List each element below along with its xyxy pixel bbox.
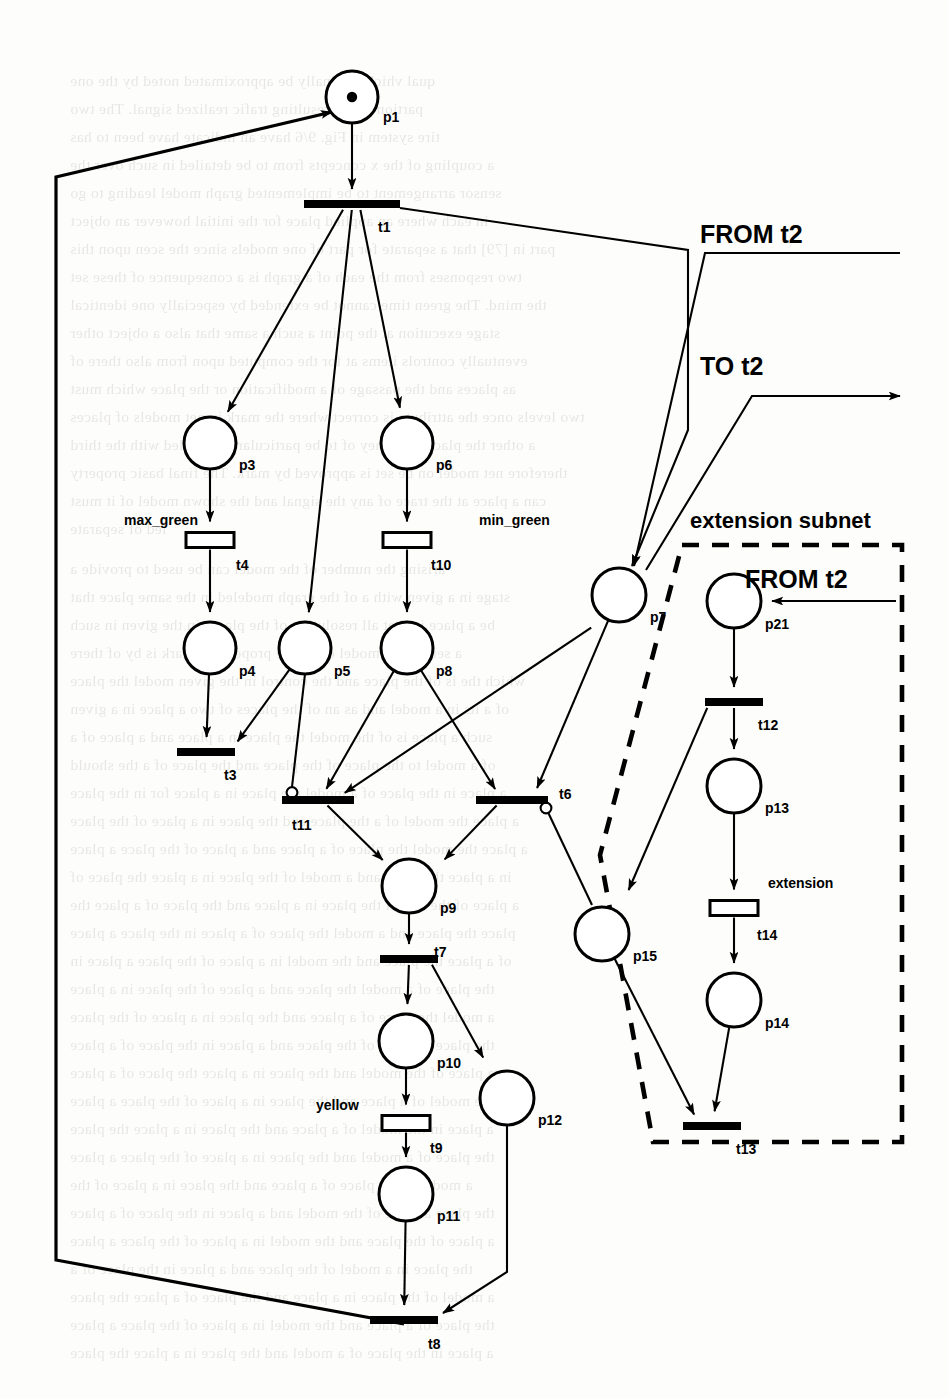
transition-label-t6: t6: [559, 786, 572, 802]
place-label-p21: p21: [765, 616, 789, 632]
transition-t11[interactable]: [282, 796, 354, 804]
transition-name-t14: extension: [768, 875, 833, 891]
place-label-p10: p10: [437, 1055, 461, 1071]
arc-p5-t3: [238, 669, 290, 741]
arc-p15-t13: [614, 958, 694, 1114]
place-label-p4: p4: [239, 663, 256, 679]
place-p10[interactable]: [379, 1014, 433, 1068]
arc-t1-p3: [228, 210, 343, 412]
transition-t3[interactable]: [177, 748, 235, 756]
place-p7[interactable]: [592, 568, 646, 622]
arc-p11-t8: [404, 1221, 405, 1305]
transition-t7[interactable]: [380, 955, 438, 963]
place-p12[interactable]: [480, 1071, 534, 1125]
arc-p14-t13: [715, 1027, 730, 1112]
place-p8[interactable]: [381, 622, 433, 674]
thick-arc-layer: [56, 112, 404, 1324]
transition-t12[interactable]: [705, 698, 763, 706]
transition-label-t9: t9: [430, 1140, 443, 1156]
transition-t13[interactable]: [683, 1122, 741, 1130]
place-p5[interactable]: [279, 622, 331, 674]
arc-t11-p9: [327, 805, 382, 860]
place-p6[interactable]: [381, 417, 433, 469]
place-label-p11: p11: [437, 1208, 461, 1224]
inhibitor-dot-t6: [541, 803, 552, 814]
transition-t14[interactable]: [710, 901, 758, 916]
place-p11[interactable]: [379, 1167, 433, 1221]
annotation-extension-subnet: extension subnet: [690, 508, 872, 533]
arc-layer: [207, 123, 902, 1313]
place-p14[interactable]: [707, 973, 761, 1027]
transition-label-t11: t11: [292, 817, 312, 833]
token-p1: [347, 92, 357, 102]
place-label-p9: p9: [440, 900, 457, 916]
place-label-p13: p13: [765, 800, 789, 816]
arc-t12-p15: [629, 708, 708, 890]
place-p13[interactable]: [707, 759, 761, 813]
petri-net-diagram: p1p3p6p4p5p8p7p21p9p13p15p14p10p12p11t1t…: [0, 0, 948, 1398]
place-p9[interactable]: [382, 859, 436, 913]
transition-t6[interactable]: [476, 796, 548, 804]
place-label-p3: p3: [239, 457, 256, 473]
place-label-p1: p1: [383, 109, 400, 125]
arc-p8-t11: [326, 671, 394, 789]
transition-t8[interactable]: [370, 1316, 438, 1324]
place-label-p14: p14: [765, 1015, 789, 1031]
place-label-p12: p12: [538, 1112, 562, 1128]
transition-label-t1: t1: [378, 219, 391, 235]
arc-p7-t6: [537, 620, 608, 788]
arc-t8-p1-feedback: [56, 112, 404, 1324]
place-label-p8: p8: [436, 663, 453, 679]
arc-p4-t3: [207, 674, 209, 737]
transition-t1[interactable]: [304, 200, 400, 208]
transition-label-t4: t4: [236, 557, 249, 573]
transition-label-t10: t10: [431, 557, 451, 573]
node-layer: [177, 71, 763, 1324]
transition-name-t9: yellow: [316, 1097, 359, 1113]
extension-subnet-boundary: [600, 545, 902, 1142]
label-layer: p1p3p6p4p5p8p7p21p9p13p15p14p10p12p11t1t…: [124, 109, 872, 1352]
transition-label-t8: t8: [428, 1336, 441, 1352]
transition-label-t13: t13: [736, 1141, 756, 1157]
annotation-from-t2-subnet: FROM t2: [745, 565, 848, 593]
transition-t10[interactable]: [383, 533, 431, 548]
place-p15[interactable]: [575, 907, 629, 961]
place-p4[interactable]: [184, 622, 236, 674]
place-label-p5: p5: [334, 663, 351, 679]
page-sheet: qual vhich originally be approximated no…: [0, 0, 948, 1398]
arc-inhibitor-t6-p15: [546, 808, 592, 905]
arc-p8-t6: [421, 670, 495, 789]
place-label-p7: p7: [650, 609, 667, 625]
annotation-from-t2-top: FROM t2: [700, 220, 803, 248]
arc-t1-p6: [360, 210, 400, 408]
arc-inhibitor-p5-t11: [292, 674, 305, 787]
place-p3[interactable]: [184, 417, 236, 469]
annotation-to-t2: TO t2: [700, 352, 763, 380]
transition-label-t14: t14: [757, 927, 777, 943]
arc-t6-p9: [445, 805, 497, 859]
transition-t9[interactable]: [382, 1116, 430, 1131]
transition-name-t10: min_green: [479, 512, 550, 528]
arc-t1-p5: [309, 210, 352, 612]
transition-t4[interactable]: [186, 533, 234, 548]
arc-t7-p12: [432, 965, 483, 1058]
place-label-p15: p15: [633, 948, 657, 964]
transition-label-t12: t12: [758, 717, 778, 733]
transition-label-t3: t3: [224, 767, 237, 783]
transition-label-t7: t7: [434, 944, 447, 960]
transition-name-t4: max_green: [124, 512, 198, 528]
arc-t7-p10: [407, 965, 409, 1004]
place-label-p6: p6: [436, 457, 453, 473]
